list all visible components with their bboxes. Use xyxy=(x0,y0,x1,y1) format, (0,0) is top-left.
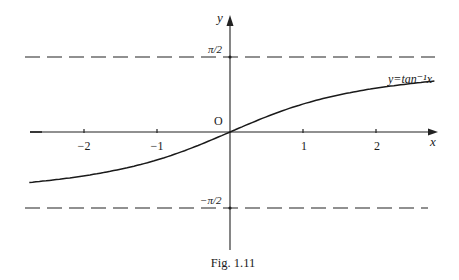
tick-label-m2: −2 xyxy=(78,139,91,153)
tick-label-p2: 2 xyxy=(374,139,380,153)
origin-label: O xyxy=(214,114,223,128)
y-axis-label: y xyxy=(215,10,223,25)
tick-label-p1: 1 xyxy=(301,139,307,153)
figure: y x O π/2 −π/2 y=tan⁻¹x −2 −1 1 2 Fig. 1… xyxy=(0,0,459,280)
chart-svg: y x O π/2 −π/2 y=tan⁻¹x −2 −1 1 2 Fig. 1… xyxy=(0,0,459,280)
neg-pi-half-label: −π/2 xyxy=(200,194,222,206)
tick-label-m1: −1 xyxy=(151,139,164,153)
x-axis-label: x xyxy=(429,134,436,149)
curve-label: y=tan⁻¹x xyxy=(387,72,433,86)
pi-half-label: π/2 xyxy=(208,43,223,55)
neg-pi-half-point xyxy=(228,206,231,209)
pi-half-point xyxy=(228,55,231,58)
figure-caption: Fig. 1.11 xyxy=(211,256,255,270)
y-axis-arrow-icon xyxy=(227,15,234,26)
